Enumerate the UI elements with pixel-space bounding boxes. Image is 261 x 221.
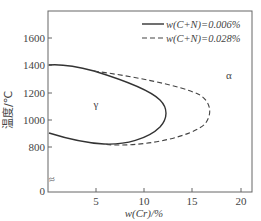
x-tick-5: 5: [93, 195, 99, 207]
legend-dashed-label: w(C+N)=0.028%: [166, 33, 241, 45]
x-axis-tick-labels: 5 10 15 20: [93, 195, 247, 207]
y-tick-0: 0: [40, 185, 46, 197]
y-tick-1200: 1200: [23, 87, 46, 99]
y-axis-label: 温度/℃: [1, 91, 15, 129]
x-tick-20: 20: [236, 195, 248, 207]
x-axis-label: w(Cr)/%: [125, 207, 164, 220]
y-tick-800: 800: [29, 141, 46, 153]
y-axis-ticks: [48, 38, 52, 147]
series-solid-curve: [49, 65, 166, 144]
y-axis-tick-labels: 1600 1400 1200 1000 800 0: [23, 32, 46, 197]
phase-diagram-chart: 1600 1400 1200 1000 800 0 ≈ 5 10 15 20 w…: [0, 0, 261, 221]
y-tick-1600: 1600: [23, 32, 46, 44]
legend: w(C+N)=0.006% w(C+N)=0.028%: [142, 19, 241, 45]
x-axis-ticks: [96, 188, 241, 192]
y-tick-1400: 1400: [23, 59, 46, 71]
x-tick-10: 10: [139, 195, 151, 207]
y-tick-1000: 1000: [23, 114, 46, 126]
legend-solid-label: w(C+N)=0.006%: [166, 19, 241, 31]
x-tick-15: 15: [187, 195, 199, 207]
alpha-phase-label: α: [226, 69, 232, 81]
axis-break-icon: ≈: [48, 173, 56, 186]
gamma-phase-label: γ: [93, 98, 99, 110]
